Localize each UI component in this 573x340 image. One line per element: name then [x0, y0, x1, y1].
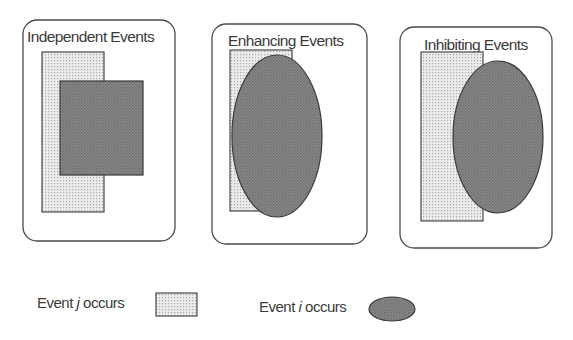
- event-i-region: [60, 81, 143, 175]
- event-i-region: [453, 61, 543, 213]
- legend-label-event-j: Event j occurs: [37, 294, 124, 311]
- legend-label-event-i: Event i occurs: [259, 298, 346, 315]
- legend-item-event-i: Event i occurs: [259, 297, 415, 321]
- venn-diagram-figure: Independent Events Enhancing Events Inhi…: [0, 0, 573, 340]
- panel-title: Enhancing Events: [228, 32, 344, 49]
- legend-swatch-event-j: [156, 293, 197, 316]
- panel-inhibiting-events: Inhibiting Events: [400, 27, 552, 248]
- legend: Event j occurs Event i occurs: [37, 293, 415, 321]
- panel-independent-events: Independent Events: [23, 20, 175, 241]
- panel-title: Inhibiting Events: [424, 36, 528, 53]
- legend-item-event-j: Event j occurs: [37, 293, 197, 316]
- panel-title: Independent Events: [27, 28, 155, 45]
- event-i-region: [232, 55, 322, 217]
- legend-swatch-event-i: [369, 297, 415, 321]
- panel-enhancing-events: Enhancing Events: [212, 24, 367, 244]
